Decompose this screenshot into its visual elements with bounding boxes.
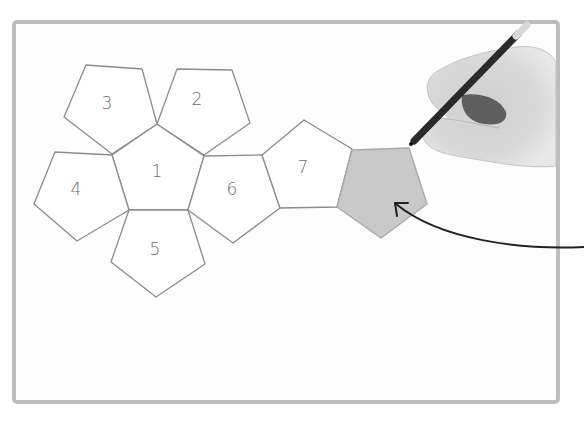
pentagon-label: 2 xyxy=(192,89,203,109)
pentagon-label: 1 xyxy=(152,161,163,181)
pencil-tip xyxy=(409,142,413,146)
pentagon-label: 6 xyxy=(227,179,238,199)
pentagon-label: 4 xyxy=(71,179,82,199)
pentagon-label: 7 xyxy=(298,157,309,177)
pentagon-label: 3 xyxy=(102,93,113,113)
pentagon-label: 5 xyxy=(150,239,161,259)
dodecahedron-net-illustration: 1234567 xyxy=(0,0,584,424)
